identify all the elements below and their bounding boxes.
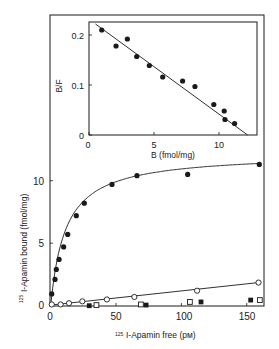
main-y-tick-5: 5 xyxy=(38,238,44,249)
scatchard-point xyxy=(222,117,227,122)
open-circle-point xyxy=(194,288,199,293)
scatchard-point xyxy=(160,74,165,79)
open-circle-point xyxy=(66,301,71,306)
filled-circle-point xyxy=(54,267,59,272)
scatchard-point xyxy=(192,84,197,89)
scatchard-point xyxy=(211,102,216,107)
open-circle-point xyxy=(80,299,85,304)
main-y-label: I-Apamin bound (fmol/mg) xyxy=(19,194,29,292)
main-x-tick-50: 50 xyxy=(110,311,122,322)
scatchard-point xyxy=(99,27,104,32)
open-square-point xyxy=(187,300,192,305)
inset-x-tick-0: 0 xyxy=(85,140,90,150)
filled-circle-point xyxy=(82,201,87,206)
filled-circle-point xyxy=(185,172,190,177)
filled-circle-point xyxy=(109,182,114,187)
filled-square-point xyxy=(248,298,253,303)
inset-x-label: B (fmol/mg) xyxy=(151,150,195,160)
main-y-tick-0: 0 xyxy=(38,300,44,311)
main-x-tick-150: 150 xyxy=(239,311,256,322)
filled-circle-point xyxy=(74,213,79,218)
main-y-tick-10: 10 xyxy=(33,176,45,187)
scatchard-point xyxy=(180,78,185,83)
scatchard-point xyxy=(222,108,227,113)
open-circle-point xyxy=(256,280,261,285)
open-circle-point xyxy=(58,302,63,307)
inset-y-label: B/F xyxy=(54,79,64,92)
scatchard-point xyxy=(125,36,130,41)
filled-square-point xyxy=(199,300,204,305)
inset-plot-frame xyxy=(89,22,257,135)
filled-square-point xyxy=(87,303,92,308)
open-square-point xyxy=(257,298,262,303)
main-x-tick-0: 0 xyxy=(47,311,53,322)
filled-square-point xyxy=(144,303,149,308)
inset-x-tick-10: 10 xyxy=(214,140,224,150)
filled-circle-point xyxy=(52,277,57,282)
main-y-label-superscript: 125 xyxy=(18,294,24,303)
inset-y-tick-0-1: 0.1 xyxy=(71,81,84,91)
main-x-label: I-Apamin free (pм) xyxy=(126,330,196,340)
main-x-tick-100: 100 xyxy=(176,311,193,322)
open-square-point xyxy=(94,303,99,308)
inset-y-tick-0: 0 xyxy=(79,131,84,141)
filled-circle-point xyxy=(257,162,262,167)
open-circle-point xyxy=(49,302,54,307)
filled-circle-point xyxy=(134,173,139,178)
scatchard-point xyxy=(147,63,152,68)
open-square-point xyxy=(138,302,143,307)
saturation-fit-curve xyxy=(51,163,260,305)
filled-circle-point xyxy=(56,257,61,262)
scatchard-point xyxy=(113,43,118,48)
main-x-label-superscript: 125 xyxy=(115,331,124,337)
filled-circle-point xyxy=(61,244,66,249)
scatchard-point xyxy=(134,54,139,59)
scatchard-point xyxy=(232,121,237,126)
inset-x-tick-5: 5 xyxy=(151,140,156,150)
filled-circle-point xyxy=(49,291,54,296)
saturation-binding-figure: 0 50 100 150 0 5 10 125 I-Apamin free (p… xyxy=(0,0,279,349)
filled-circle-point xyxy=(65,232,70,237)
inset-y-tick-0-2: 0.2 xyxy=(71,31,84,41)
main-plot xyxy=(49,162,262,308)
open-circle-point xyxy=(104,297,109,302)
open-circle-point xyxy=(132,294,137,299)
